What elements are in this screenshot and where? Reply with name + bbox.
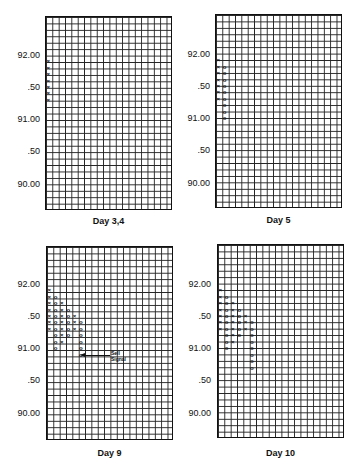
y-tick: 90.00 [175,408,211,418]
chart-grid [46,246,173,440]
o-mark: o [223,294,229,300]
o-mark: o [78,339,84,345]
panel-caption: Day 10 [217,448,344,458]
o-mark: o [223,345,229,351]
o-mark: o [221,64,227,70]
o-mark: o [221,96,227,102]
x-mark: × [45,90,51,96]
sell-signal-label: Sell Signal [111,350,131,362]
y-tick: .50 [175,375,211,385]
x-mark: × [45,97,51,103]
x-mark: × [45,65,51,71]
y-tick: 90.00 [4,408,40,418]
panel-caption: Day 3,4 [45,216,172,226]
o-mark: o [221,102,227,108]
x-mark: × [59,300,65,306]
y-tick: 91.00 [174,113,210,123]
o-mark: o [236,332,242,338]
o-mark: o [249,332,255,338]
o-mark: o [249,339,255,345]
panel-caption: Day 5 [215,215,342,225]
y-tick: 91.00 [4,114,40,124]
o-mark: o [52,294,58,300]
y-tick: .50 [174,81,210,91]
o-mark: o [78,345,84,351]
chart-grid [217,244,344,438]
o-mark: o [221,115,227,121]
o-mark: o [221,109,227,115]
o-mark: o [221,89,227,95]
x-mark: × [46,287,52,293]
panel-caption: Day 9 [46,448,173,458]
o-mark: o [221,77,227,83]
o-mark: o [249,358,255,364]
y-tick: 92.00 [175,279,211,289]
o-mark: o [249,365,255,371]
chart-grid [45,16,172,210]
x-mark: × [45,71,51,77]
y-tick: 90.00 [174,178,210,188]
y-tick: 92.00 [4,50,40,60]
o-mark: o [249,345,255,351]
x-mark: × [230,339,236,345]
o-mark: o [249,319,255,325]
o-mark: o [249,326,255,332]
x-mark: × [230,300,236,306]
sell-signal-arrow [84,355,110,356]
y-tick: .50 [174,145,210,155]
o-mark: o [65,307,71,313]
o-mark: o [249,352,255,358]
y-tick: .50 [175,311,211,321]
y-tick: 91.00 [175,343,211,353]
y-tick: .50 [4,375,40,385]
y-tick: .50 [4,82,40,92]
chart-grid [215,14,342,208]
y-tick: 91.00 [4,343,40,353]
x-mark: × [71,313,77,319]
o-mark: o [52,345,58,351]
x-mark: × [59,339,65,345]
o-mark: o [221,83,227,89]
y-tick: 92.00 [174,49,210,59]
y-tick: .50 [4,311,40,321]
o-mark: o [221,70,227,76]
x-mark: × [215,57,221,63]
o-mark: o [78,332,84,338]
x-mark: × [45,84,51,90]
x-mark: × [217,287,223,293]
o-mark: o [78,326,84,332]
o-mark: o [65,332,71,338]
y-tick: 92.00 [4,279,40,289]
y-tick: .50 [4,146,40,156]
x-mark: × [45,58,51,64]
o-mark: o [78,319,84,325]
y-tick: 90.00 [4,179,40,189]
x-mark: × [242,313,248,319]
x-mark: × [45,78,51,84]
o-mark: o [236,307,242,313]
